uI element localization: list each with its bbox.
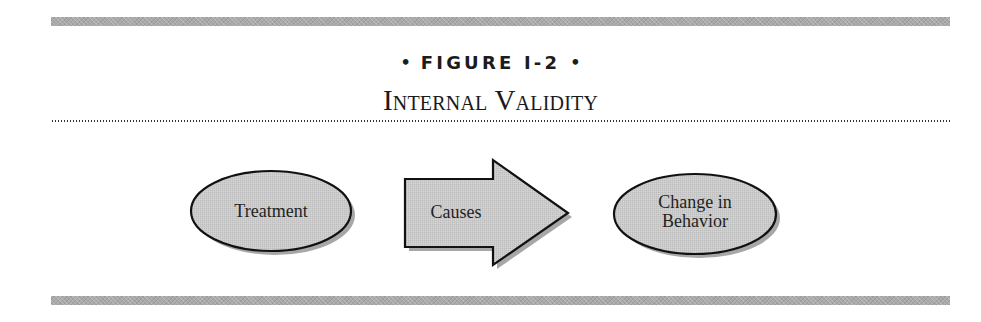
change-in-behavior-label: Change in Behavior	[635, 193, 755, 231]
change-label-line-2: Behavior	[635, 212, 755, 231]
causes-label: Causes	[412, 203, 500, 222]
causal-diagram: Treatment Causes Change in Behavior	[0, 0, 981, 322]
change-label-line-1: Change in	[635, 193, 755, 212]
treatment-label: Treatment	[211, 202, 331, 221]
bottom-rule-bar	[51, 296, 950, 305]
